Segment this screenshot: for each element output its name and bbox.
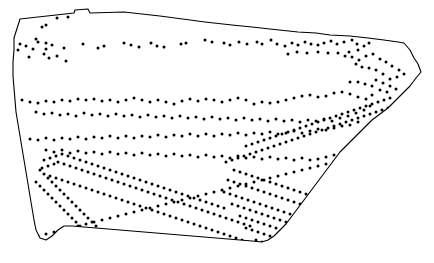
sample-location-dot	[293, 129, 296, 132]
sample-location-dot	[19, 43, 22, 46]
sample-location-dot	[87, 233, 90, 236]
sample-location-dot	[107, 237, 110, 240]
sample-location-dot	[150, 42, 153, 45]
sample-location-dot	[364, 83, 367, 86]
sample-location-dot	[317, 197, 320, 200]
sample-location-dot	[255, 239, 258, 242]
sample-location-dot	[207, 211, 210, 214]
sample-location-dot	[277, 209, 280, 212]
sample-location-dot	[291, 223, 294, 226]
sample-location-dot	[395, 223, 398, 226]
sample-location-dot	[155, 116, 158, 119]
sample-location-dot	[333, 237, 336, 240]
sample-location-dot	[355, 112, 358, 115]
sample-location-dot	[325, 163, 328, 166]
sample-location-dot	[281, 229, 284, 232]
sample-location-dot	[296, 51, 299, 54]
sample-location-dot	[393, 105, 396, 108]
sample-location-dot	[29, 101, 32, 104]
sample-location-dot	[205, 227, 208, 230]
sample-location-dot	[337, 52, 340, 55]
sample-location-dot	[211, 229, 214, 232]
sample-location-dot	[361, 66, 364, 69]
sample-location-dot	[61, 137, 64, 140]
sample-location-dot	[259, 118, 262, 121]
sample-location-dot	[243, 223, 246, 226]
sample-location-dot	[347, 111, 350, 114]
sample-location-dot	[267, 215, 270, 218]
sample-location-dot	[329, 213, 332, 216]
sample-location-dot	[67, 181, 70, 184]
sample-location-dot	[231, 203, 234, 206]
sample-location-dot	[285, 157, 288, 160]
sample-location-dot	[341, 159, 344, 162]
sample-location-dot	[77, 98, 80, 101]
sample-location-dot	[123, 42, 126, 45]
sample-location-dot	[127, 201, 130, 204]
sample-location-dot	[359, 223, 362, 226]
sample-location-dot	[217, 205, 220, 208]
sample-location-dot	[73, 183, 76, 186]
sample-location-dot	[237, 132, 240, 135]
sample-location-dot	[349, 233, 352, 236]
sample-location-dot	[175, 191, 178, 194]
sample-location-dot	[79, 185, 82, 188]
sample-location-dot	[47, 193, 50, 196]
sample-location-dot	[281, 239, 284, 242]
sample-location-dot	[303, 227, 306, 230]
sample-location-dot	[336, 43, 339, 46]
sample-location-dot	[269, 225, 272, 228]
pennsylvania-map	[0, 0, 434, 263]
sample-location-dot	[261, 101, 264, 104]
sample-location-dot	[335, 215, 338, 218]
sample-location-dot	[301, 169, 304, 172]
sample-location-dot	[35, 181, 38, 184]
sample-location-dot	[353, 109, 356, 112]
sample-location-dot	[311, 123, 314, 126]
sample-location-dot	[73, 157, 76, 160]
sample-location-dot	[335, 115, 338, 118]
sample-location-dot	[189, 154, 192, 157]
sample-location-dot	[181, 193, 184, 196]
sample-location-dot	[51, 44, 54, 47]
sample-location-dot	[28, 56, 31, 59]
sample-location-dot	[37, 41, 40, 44]
sample-location-dot	[305, 205, 308, 208]
sample-location-dot	[383, 99, 386, 102]
sample-location-dot	[163, 46, 166, 49]
sample-location-dot	[365, 144, 368, 147]
sample-location-dot	[117, 153, 120, 156]
sample-location-dot	[253, 201, 256, 204]
sample-location-dot	[269, 193, 272, 196]
sample-location-dot	[313, 221, 316, 224]
sample-location-dot	[357, 155, 360, 158]
sample-location-dot	[133, 97, 136, 100]
sample-location-dot	[353, 209, 356, 212]
sample-location-dot	[69, 165, 72, 168]
sample-location-dot	[163, 187, 166, 190]
sample-location-dot	[35, 111, 38, 114]
sample-location-dot	[261, 213, 264, 216]
sample-location-dot	[306, 52, 309, 55]
sample-location-dot	[315, 231, 318, 234]
sample-location-dot	[365, 213, 368, 216]
sample-location-dot	[227, 179, 230, 182]
sample-location-dot	[371, 85, 374, 88]
sample-location-dot	[305, 125, 308, 128]
sample-location-dot	[157, 185, 160, 188]
sample-location-dot	[284, 45, 287, 48]
sample-location-dot	[169, 189, 172, 192]
sample-location-dot	[323, 199, 326, 202]
sample-location-dot	[331, 120, 334, 123]
sample-location-dot	[69, 138, 72, 141]
sample-location-dot	[239, 171, 242, 174]
sample-location-dot	[261, 43, 264, 46]
sample-location-dot	[299, 235, 302, 238]
sample-location-dot	[245, 145, 248, 148]
sample-location-dot	[267, 243, 270, 246]
sample-location-dot	[39, 185, 42, 188]
sample-location-dot	[329, 201, 332, 204]
sample-location-dot	[359, 211, 362, 214]
sample-location-dot	[379, 89, 382, 92]
sample-location-dot	[253, 132, 256, 135]
